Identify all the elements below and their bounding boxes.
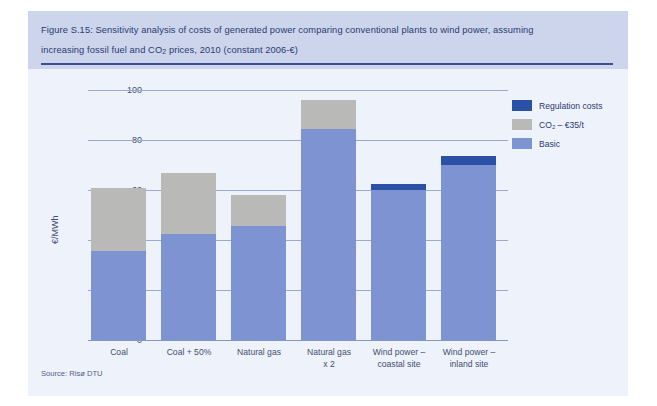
header-divider-rule — [41, 63, 613, 65]
gridline-0 — [88, 340, 508, 341]
plot-area — [88, 90, 508, 340]
figure-panel: Figure S.15: Sensitivity analysis of cos… — [28, 11, 628, 396]
bar-segment-basic — [371, 190, 426, 340]
legend-label-regulation-costs: Regulation costs — [539, 101, 603, 111]
bar-segment-co2 — [301, 100, 356, 129]
bar-segment-basic — [231, 226, 286, 340]
gridline-80 — [88, 140, 508, 141]
figure-caption: Figure S.15: Sensitivity analysis of cos… — [41, 20, 613, 62]
bar-segment-reg — [371, 184, 426, 190]
bar-segment-co2 — [231, 195, 286, 226]
figure-header: Figure S.15: Sensitivity analysis of cos… — [28, 11, 628, 69]
figure-caption-line-2-part-b: prices, 2010 (constant 2006-€) — [166, 45, 298, 55]
bar-segment-basic — [441, 165, 496, 340]
chart-container: €/MWh 100 80 60 40 20 0 Coal — [28, 69, 628, 396]
legend-swatch-basic — [512, 138, 532, 149]
bar-segment-co2 — [161, 173, 216, 234]
bar-segment-reg — [441, 156, 496, 165]
bar-segment-basic — [161, 234, 216, 340]
figure-caption-line-2: increasing fossil fuel and CO2 prices, 2… — [41, 40, 613, 62]
figure-caption-line-2-part-a: increasing fossil fuel and CO — [41, 45, 162, 55]
bar-segment-basic — [91, 251, 146, 340]
legend-swatch-co2 — [512, 119, 532, 130]
chart-legend: Regulation costs CO₂ – €35/t Basic — [512, 98, 603, 155]
bar-segment-co2 — [91, 188, 146, 252]
figure-caption-line-1: Figure S.15: Sensitivity analysis of cos… — [41, 25, 534, 35]
gridline-100 — [88, 90, 508, 91]
legend-item-co2[interactable]: CO₂ – €35/t — [512, 117, 603, 132]
legend-item-regulation-costs[interactable]: Regulation costs — [512, 98, 603, 113]
legend-label-co2: CO₂ – €35/t — [539, 120, 584, 130]
y-axis-title: €/MWh — [50, 215, 60, 244]
legend-swatch-regulation-costs — [512, 100, 532, 111]
source-note: Source: Risø DTU — [41, 369, 103, 378]
bar-segment-basic — [301, 129, 356, 340]
x-tick-label-wind-inland: Wind power – inland site — [421, 346, 517, 370]
legend-item-basic[interactable]: Basic — [512, 136, 603, 151]
legend-label-basic: Basic — [539, 139, 560, 149]
